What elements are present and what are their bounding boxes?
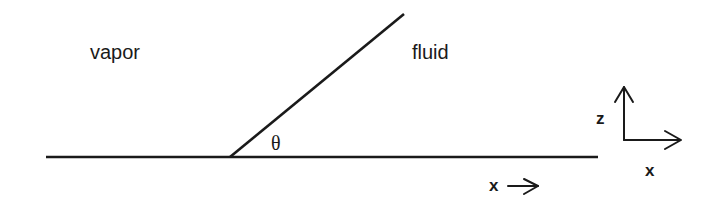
contact-angle-diagram: vapor fluid θ x z x bbox=[0, 0, 719, 209]
surface-x-arrow-icon bbox=[508, 179, 538, 194]
fluid-label: fluid bbox=[412, 41, 449, 63]
interface-line bbox=[230, 14, 404, 157]
theta-angle-label: θ bbox=[271, 132, 281, 154]
surface-x-label: x bbox=[489, 176, 499, 195]
vapor-label: vapor bbox=[90, 41, 140, 63]
z-axis-label: z bbox=[596, 109, 605, 128]
coordinate-axes-icon bbox=[615, 87, 681, 149]
x-axis-label: x bbox=[645, 161, 655, 180]
